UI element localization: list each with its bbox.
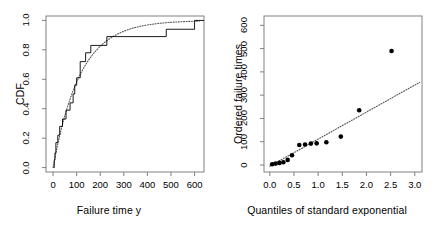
qq-xtick-label: 0.5	[287, 179, 300, 190]
qq-data-point	[273, 161, 278, 166]
qq-xtick-label: 2.0	[360, 179, 373, 190]
empirical-cdf-step	[54, 20, 204, 167]
cdf-xtick-label: 300	[116, 179, 132, 190]
cdf-xtick-label: 500	[163, 179, 179, 190]
cdf-ytick-label: 0.6	[19, 64, 33, 94]
cdf-panel: Failure time y CDF 01002003004005006000.…	[0, 0, 218, 230]
qq-data-point	[357, 108, 362, 113]
plot-frame	[46, 16, 204, 172]
qq-data-point	[303, 142, 308, 147]
qq-data-point	[281, 160, 286, 165]
cdf-xtick-label: 0	[50, 179, 55, 190]
qq-xtick-label: 3.0	[408, 179, 421, 190]
qq-data-point	[297, 143, 302, 148]
qq-data-point	[309, 141, 314, 146]
qq-panel: Quantiles of standard exponential Ordere…	[218, 0, 436, 230]
plot-frame	[264, 16, 422, 172]
cdf-xtick-label: 400	[139, 179, 155, 190]
qq-data-point	[290, 153, 295, 158]
cdf-xtick-label: 100	[69, 179, 85, 190]
cdf-ytick-label: 0.0	[19, 153, 33, 183]
qq-ytick-label: 600	[237, 10, 251, 40]
qq-xtick-label: 1.0	[312, 179, 325, 190]
qq-data-point	[324, 140, 329, 145]
qq-xaxis-title: Quantiles of standard exponential	[218, 204, 436, 216]
qq-data-point	[314, 141, 319, 146]
qq-data-point	[277, 161, 282, 166]
cdf-ytick-label: 0.4	[19, 94, 33, 124]
qq-xtick-label: 1.5	[336, 179, 349, 190]
cdf-xtick-label: 200	[92, 179, 108, 190]
cdf-ytick-label: 0.8	[19, 35, 33, 65]
qq-data-point	[339, 134, 344, 139]
figure-container: Failure time y CDF 01002003004005006000.…	[0, 0, 436, 230]
cdf-xtick-label: 600	[187, 179, 203, 190]
qq-xtick-label: 0.0	[263, 179, 276, 190]
cdf-ytick-label: 0.2	[19, 123, 33, 153]
qq-data-point	[285, 158, 290, 163]
cdf-xaxis-title: Failure time y	[0, 204, 218, 216]
cdf-ytick-label: 1.0	[19, 5, 33, 35]
qq-data-point	[389, 49, 394, 54]
qq-xtick-label: 2.5	[384, 179, 397, 190]
